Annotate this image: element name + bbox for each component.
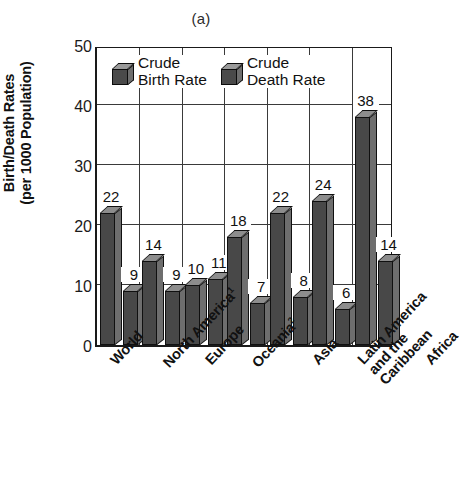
bar-value-label-birth: 24: [310, 177, 336, 192]
plot-area: 22914910111872282463814: [95, 47, 392, 347]
y-axis-tick-labels: 50403020100: [50, 47, 92, 347]
legend-item-crude-death-rate: Crude Death Rate: [221, 55, 325, 88]
y-axis-tick-label: 10: [56, 278, 92, 296]
chart-title: (a): [0, 10, 402, 27]
y-axis-tick-label: 20: [56, 218, 92, 236]
y-axis-tick-label: 50: [56, 38, 92, 56]
legend-label-line2: Death Rate: [247, 72, 325, 89]
bar-birth-rate: [355, 117, 370, 345]
bar-value-label-death: 14: [376, 237, 402, 252]
bar-value-label-birth: 38: [353, 93, 379, 108]
gridline-horizontal: [97, 164, 391, 165]
bar-value-label-birth: 22: [98, 189, 124, 204]
bar-birth-rate: [312, 201, 327, 345]
bar-value-label-birth: 22: [268, 189, 294, 204]
legend-label-line2: Birth Rate: [138, 72, 207, 89]
gridline-horizontal: [97, 104, 391, 105]
y-axis-tick-label: 40: [56, 98, 92, 116]
legend-label-line1: Crude: [247, 55, 325, 72]
cube-icon: [112, 59, 134, 85]
bar-birth-rate: [100, 213, 115, 345]
bar-value-label-birth: 18: [225, 213, 251, 228]
legend-label-crude-birth-rate: Crude Birth Rate: [138, 55, 207, 88]
legend-label-crude-death-rate: Crude Death Rate: [247, 55, 325, 88]
y-axis-title-line1: Birth/Death Rates: [1, 74, 17, 192]
bar-birth-rate: [142, 261, 157, 345]
chart-legend: Crude Birth Rate Crude Death Rate: [112, 55, 325, 88]
cube-icon: [221, 59, 243, 85]
y-axis-tick-label: 30: [56, 158, 92, 176]
legend-item-crude-birth-rate: Crude Birth Rate: [112, 55, 207, 88]
x-axis-tick-labels: WorldNorth America1EuropeOceania2AsiaLat…: [0, 347, 402, 483]
y-axis-title-line2: (per 1000 Population): [18, 33, 35, 233]
bar-death-rate: [335, 309, 350, 345]
legend-label-line1: Crude: [138, 55, 207, 72]
bar-value-label-birth: 14: [140, 237, 166, 252]
